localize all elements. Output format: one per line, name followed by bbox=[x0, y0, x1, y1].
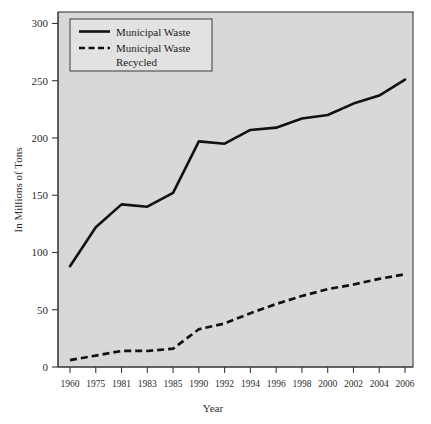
y-axis-title: In Millions of Tons bbox=[12, 148, 24, 233]
legend-label-municipal-waste-recycled-line1: Municipal Waste bbox=[116, 42, 190, 54]
x-tick-label: 1996 bbox=[267, 379, 286, 389]
legend-label-municipal-waste-recycled-line2: Recycled bbox=[116, 56, 157, 68]
line-chart: 050100150200250300 196019751981198319851… bbox=[0, 0, 431, 424]
y-tick-label: 300 bbox=[32, 17, 49, 29]
x-tick-label: 1981 bbox=[112, 379, 131, 389]
x-tick-label: 2004 bbox=[370, 379, 389, 389]
x-tick-label: 1994 bbox=[241, 379, 260, 389]
x-tick-label: 1990 bbox=[189, 379, 208, 389]
x-tick-label: 1998 bbox=[292, 379, 311, 389]
legend: Municipal Waste Municipal Waste Recycled bbox=[70, 19, 212, 71]
x-tick-label: 1975 bbox=[86, 379, 105, 389]
y-tick-label: 50 bbox=[37, 304, 49, 316]
x-tick-label: 2006 bbox=[396, 379, 415, 389]
x-tick-label: 1985 bbox=[164, 379, 183, 389]
x-axis-title: Year bbox=[203, 402, 224, 414]
x-tick-label: 1983 bbox=[138, 379, 157, 389]
y-tick-label: 0 bbox=[43, 361, 49, 373]
x-tick-label: 2002 bbox=[344, 379, 363, 389]
y-tick-label: 250 bbox=[32, 75, 49, 87]
y-tick-label: 100 bbox=[32, 246, 49, 258]
legend-label-municipal-waste: Municipal Waste bbox=[116, 26, 190, 38]
y-tick-label: 150 bbox=[32, 189, 49, 201]
x-tick-label: 1960 bbox=[61, 379, 80, 389]
chart-container: 050100150200250300 196019751981198319851… bbox=[0, 0, 431, 424]
x-tick-label: 2000 bbox=[318, 379, 337, 389]
x-tick-label: 1992 bbox=[215, 379, 234, 389]
y-tick-label: 200 bbox=[32, 132, 49, 144]
